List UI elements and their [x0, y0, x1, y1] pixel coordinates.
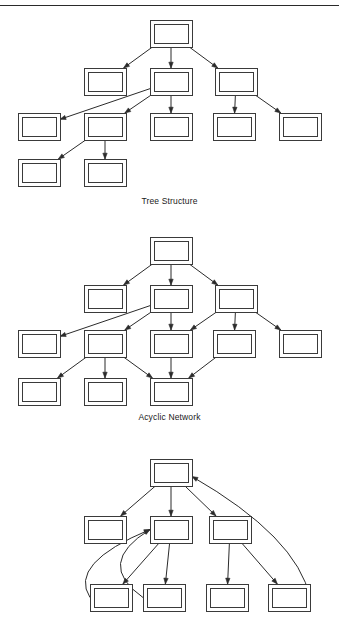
graph-edge [164, 543, 170, 584]
graph-node [151, 517, 193, 544]
graph-node [91, 585, 133, 612]
graph-edge [123, 543, 159, 584]
graph-edge [121, 486, 156, 516]
graph-node [210, 517, 252, 544]
graph-edge [185, 486, 216, 516]
graph-edge [242, 543, 278, 584]
graph-node [269, 585, 311, 612]
figure-page: Tree Structure Acyclic Network [0, 0, 339, 622]
graph-node [85, 517, 127, 544]
graph-node [144, 585, 186, 612]
graph-edge [226, 543, 230, 584]
node-layer [85, 460, 311, 612]
graph-edge [169, 486, 173, 516]
cyclic-network-graph [0, 0, 339, 622]
graph-node [151, 460, 193, 487]
figure-cyclic-network [0, 0, 339, 622]
graph-node [207, 585, 249, 612]
